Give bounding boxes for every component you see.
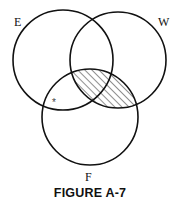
venn-diagram: E W F * — [0, 0, 180, 206]
asterisk-marker: * — [52, 97, 56, 108]
set-label-e: E — [14, 15, 21, 29]
figure-caption: FIGURE A-7 — [0, 186, 180, 200]
set-label-f: F — [85, 170, 92, 184]
circle-e — [13, 10, 113, 110]
set-label-w: W — [158, 15, 170, 29]
